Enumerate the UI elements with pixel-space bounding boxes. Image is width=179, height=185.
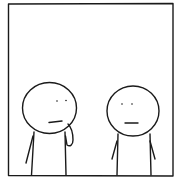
right-figure-left-arm — [112, 141, 117, 159]
right-figure-body-left — [117, 134, 118, 175]
right-figure-eye — [131, 103, 133, 105]
left-figure-eye — [65, 100, 67, 102]
right-figure-body-right — [150, 134, 151, 175]
left-figure-mouth — [49, 121, 62, 123]
left-stick-figure — [23, 83, 77, 176]
right-stick-figure — [107, 86, 159, 175]
comic-panel — [0, 0, 179, 185]
left-figure-head — [23, 83, 77, 134]
left-figure-eye — [56, 100, 58, 102]
right-figure-head — [107, 86, 159, 136]
right-figure-eye — [121, 103, 123, 105]
